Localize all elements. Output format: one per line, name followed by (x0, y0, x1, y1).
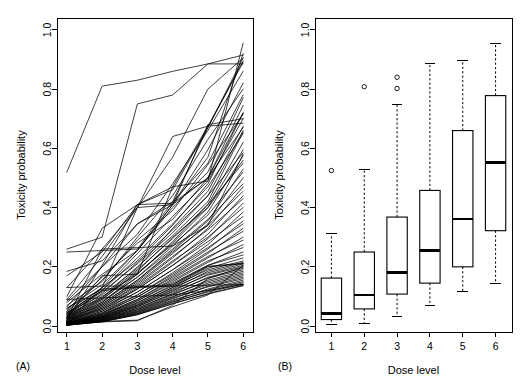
trajectory-line (67, 64, 243, 172)
boxplot-box (387, 75, 407, 316)
panel-b-canvas: 123456 0.00.20.40.60.81.0 Dose level Tox… (262, 0, 524, 388)
y-tick-label: 0.0 (41, 319, 53, 334)
y-tick-label: 0.2 (41, 259, 53, 274)
x-tick-label: 4 (427, 340, 433, 352)
x-tick-label: 3 (134, 340, 140, 352)
y-axis-label-b: Toxicity probability (273, 130, 285, 220)
panel-a: 123456 0.00.20.40.60.81.0 Dose level Tox… (0, 0, 262, 388)
boxplot-group (321, 43, 506, 324)
boxplot-box (453, 60, 473, 291)
x-tick-label: 3 (394, 340, 400, 352)
boxplot-box (485, 43, 505, 283)
x-tick-label: 6 (493, 340, 499, 352)
x-axis-label-a: Dose level (129, 364, 180, 376)
figure-root: 123456 0.00.20.40.60.81.0 Dose level Tox… (0, 0, 524, 388)
boxplot-box (420, 64, 440, 305)
y-tick-label: 0.4 (299, 200, 311, 215)
outlier-point (395, 75, 399, 79)
x-axis-b: 123456 (328, 332, 498, 352)
y-tick-label: 0.8 (41, 82, 53, 97)
y-axis-a: 0.00.20.40.60.81.0 (41, 22, 57, 333)
plot-frame-b (315, 18, 512, 332)
panel-tag-a: (A) (16, 360, 30, 372)
y-tick-label: 0.2 (299, 259, 311, 274)
y-tick-label: 0.6 (299, 141, 311, 156)
y-axis-label-a: Toxicity probability (15, 130, 27, 220)
boxplot-box (354, 85, 374, 324)
x-axis-a: 123456 (64, 332, 246, 352)
outlier-point (329, 168, 333, 172)
boxplot-box (321, 168, 341, 324)
panel-b: 123456 0.00.20.40.60.81.0 Dose level Tox… (262, 0, 524, 388)
outlier-point (362, 85, 366, 89)
y-tick-label: 0.4 (41, 200, 53, 215)
y-tick-label: 1.0 (41, 22, 53, 37)
x-tick-label: 2 (99, 340, 105, 352)
outlier-point (395, 86, 399, 90)
trajectory-line (67, 58, 243, 252)
x-axis-label-b: Dose level (388, 364, 439, 376)
line-series-group (67, 43, 243, 325)
panel-tag-b: (B) (278, 360, 292, 372)
y-tick-label: 0.6 (41, 141, 53, 156)
x-tick-label: 1 (64, 340, 70, 352)
x-tick-label: 5 (205, 340, 211, 352)
x-tick-label: 5 (460, 340, 466, 352)
y-tick-label: 0.8 (299, 82, 311, 97)
y-tick-label: 0.0 (299, 319, 311, 334)
y-axis-b: 0.00.20.40.60.81.0 (299, 22, 315, 333)
x-tick-label: 1 (328, 340, 334, 352)
panel-a-canvas: 123456 0.00.20.40.60.81.0 Dose level Tox… (0, 0, 262, 388)
x-tick-label: 2 (361, 340, 367, 352)
x-tick-label: 6 (240, 340, 246, 352)
x-tick-label: 4 (170, 340, 176, 352)
y-tick-label: 1.0 (299, 22, 311, 37)
